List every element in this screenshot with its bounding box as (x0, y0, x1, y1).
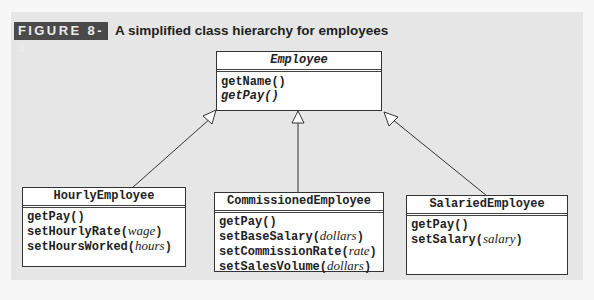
inheritance-arrow-commissioned (292, 111, 304, 123)
inheritance-arrow-hourly (203, 110, 216, 124)
class-commissioned-employee: CommissionedEmployee getPay() setBaseSal… (214, 192, 384, 272)
inheritance-arrow-salaried (384, 112, 398, 126)
class-hourly-employee: HourlyEmployee getPay() setHourlyRate(wa… (22, 187, 186, 267)
method: setCommissionRate(rate) (219, 244, 379, 259)
method: getPay() (219, 215, 379, 229)
method: setSalesVolume(dollars) (219, 259, 379, 274)
class-name: SalariedEmployee (407, 196, 567, 216)
class-name: CommissionedEmployee (215, 193, 383, 213)
method: setBaseSalary(dollars) (219, 229, 379, 244)
method: getPay() (411, 218, 563, 232)
class-salaried-employee: SalariedEmployee getPay() setSalary(sala… (406, 195, 568, 275)
class-name: Employee (217, 52, 381, 72)
method-abstract: getPay() (221, 89, 377, 103)
method: getName() (221, 75, 377, 89)
class-name: HourlyEmployee (23, 188, 185, 208)
method: setSalary(salary) (411, 232, 563, 247)
method: setHoursWorked(hours) (27, 239, 181, 254)
method: getPay() (27, 210, 181, 224)
method: setHourlyRate(wage) (27, 224, 181, 239)
class-employee: Employee getName() getPay() (216, 51, 382, 111)
